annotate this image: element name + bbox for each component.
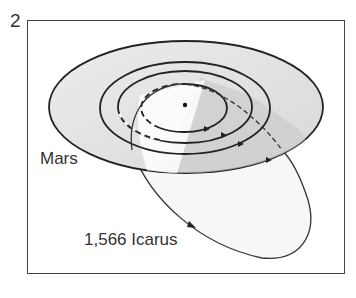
- mars-label: Mars: [40, 149, 78, 169]
- sun-dot: [183, 103, 187, 107]
- icarus-label: 1,566 Icarus: [84, 230, 178, 250]
